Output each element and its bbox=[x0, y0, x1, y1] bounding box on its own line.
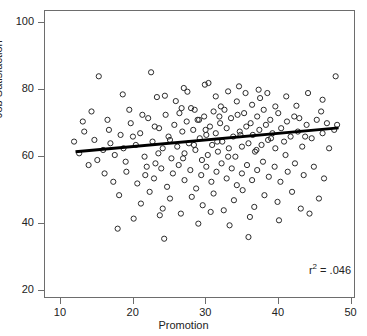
y-axis-tick bbox=[38, 290, 44, 291]
data-point bbox=[305, 90, 310, 95]
data-point bbox=[211, 109, 216, 114]
data-point bbox=[208, 209, 213, 214]
data-point bbox=[231, 198, 236, 203]
data-point bbox=[247, 214, 252, 219]
data-point bbox=[307, 211, 312, 216]
data-point bbox=[118, 132, 123, 137]
data-point bbox=[294, 103, 299, 108]
data-point bbox=[246, 141, 251, 146]
data-point bbox=[123, 159, 128, 164]
data-point bbox=[147, 189, 152, 194]
data-point bbox=[240, 188, 245, 193]
data-point bbox=[95, 157, 100, 162]
data-point bbox=[200, 203, 205, 208]
data-point bbox=[181, 85, 186, 90]
data-point bbox=[311, 164, 316, 169]
data-point bbox=[138, 131, 143, 136]
data-point bbox=[96, 74, 101, 79]
data-point bbox=[112, 152, 117, 157]
data-point bbox=[71, 139, 76, 144]
data-point bbox=[301, 172, 306, 177]
data-point bbox=[176, 162, 181, 167]
data-point bbox=[86, 162, 91, 167]
data-point bbox=[180, 156, 185, 161]
data-point bbox=[236, 84, 241, 89]
data-point bbox=[199, 172, 204, 177]
data-point bbox=[235, 112, 240, 117]
x-axis-tick-label: 40 bbox=[262, 307, 294, 318]
data-point bbox=[177, 111, 182, 116]
data-point bbox=[246, 234, 251, 239]
data-point bbox=[153, 161, 158, 166]
data-point bbox=[314, 117, 319, 122]
y-axis-tick bbox=[38, 89, 44, 90]
data-point bbox=[297, 116, 302, 121]
data-point bbox=[316, 196, 321, 201]
data-point bbox=[257, 95, 262, 100]
data-point bbox=[127, 107, 132, 112]
data-point bbox=[249, 102, 254, 107]
x-axis-tick-label: 20 bbox=[117, 307, 149, 318]
data-point bbox=[215, 149, 220, 154]
data-point bbox=[324, 121, 329, 126]
data-point bbox=[124, 169, 129, 174]
data-point bbox=[182, 151, 187, 156]
data-point bbox=[257, 127, 262, 132]
data-point bbox=[272, 164, 277, 169]
data-point bbox=[217, 114, 222, 119]
data-point bbox=[255, 167, 260, 172]
data-point bbox=[164, 184, 169, 189]
data-point bbox=[205, 152, 210, 157]
data-point bbox=[273, 146, 278, 151]
data-point bbox=[131, 216, 136, 221]
data-point bbox=[89, 109, 94, 114]
r2-exponent: 2 bbox=[313, 262, 317, 271]
data-point bbox=[175, 144, 180, 149]
data-point bbox=[159, 166, 164, 171]
data-point bbox=[284, 94, 289, 99]
data-point bbox=[163, 112, 168, 117]
data-point bbox=[268, 117, 273, 122]
data-point bbox=[221, 208, 226, 213]
data-point bbox=[140, 112, 145, 117]
data-point bbox=[179, 106, 184, 111]
data-point bbox=[239, 144, 244, 149]
data-point bbox=[239, 171, 244, 176]
data-point bbox=[144, 164, 149, 169]
data-point bbox=[173, 98, 178, 103]
data-point bbox=[170, 171, 175, 176]
data-point bbox=[275, 199, 280, 204]
data-point bbox=[285, 169, 290, 174]
data-point bbox=[211, 191, 216, 196]
data-point bbox=[210, 142, 215, 147]
x-axis-tick bbox=[278, 298, 279, 304]
data-point bbox=[289, 189, 294, 194]
data-point bbox=[276, 218, 281, 223]
data-point bbox=[292, 114, 297, 119]
x-axis-tick-label: 30 bbox=[189, 307, 221, 318]
plot-area bbox=[44, 10, 355, 298]
data-point bbox=[276, 111, 281, 116]
data-point bbox=[191, 127, 196, 132]
y-axis-tick-label: 20 bbox=[2, 284, 34, 295]
y-axis-tick-label: 80 bbox=[2, 83, 34, 94]
data-point bbox=[255, 114, 260, 119]
x-axis-tick bbox=[60, 298, 61, 304]
data-point bbox=[242, 111, 247, 116]
data-point bbox=[189, 194, 194, 199]
data-point bbox=[106, 127, 111, 132]
data-point bbox=[167, 196, 172, 201]
data-point bbox=[234, 99, 239, 104]
data-point bbox=[108, 141, 113, 146]
data-point bbox=[244, 162, 249, 167]
data-point bbox=[259, 142, 264, 147]
data-point bbox=[213, 94, 218, 99]
data-point bbox=[82, 129, 87, 134]
data-point bbox=[279, 126, 284, 131]
data-point bbox=[222, 107, 227, 112]
data-point bbox=[157, 213, 162, 218]
data-point bbox=[105, 117, 110, 122]
data-point bbox=[154, 94, 159, 99]
data-point bbox=[248, 121, 253, 126]
data-point bbox=[130, 134, 135, 139]
